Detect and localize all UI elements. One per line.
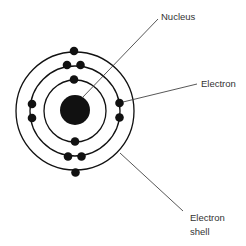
electron <box>77 152 86 161</box>
electron <box>70 47 79 56</box>
electron-leader-line <box>123 84 197 102</box>
electron <box>76 61 85 70</box>
electron <box>28 114 37 123</box>
nucleus <box>60 95 90 125</box>
electron <box>63 61 72 70</box>
electron-label: Electron <box>201 77 236 90</box>
electron <box>64 152 73 161</box>
nucleus-label: Nucleus <box>161 10 195 23</box>
electron <box>115 113 124 122</box>
electron <box>70 75 79 84</box>
electron <box>71 137 80 146</box>
electron <box>28 100 37 109</box>
electron-shell-label-line2: shell <box>190 225 210 238</box>
atom-svg <box>0 0 246 246</box>
electron-shell-label-line1: Electron <box>190 211 225 224</box>
shell-leader-line <box>120 153 183 211</box>
nucleus-leader-line <box>82 19 158 98</box>
electron <box>115 99 124 108</box>
atom-diagram: Nucleus Electron Electron shell <box>0 0 246 246</box>
electron <box>71 168 80 177</box>
